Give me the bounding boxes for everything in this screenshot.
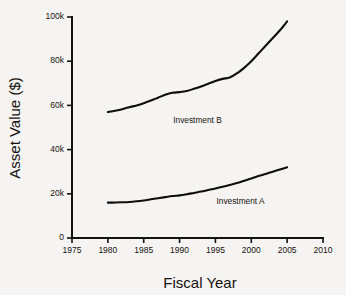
y-tick-label: 20k	[50, 188, 64, 198]
y-axis: 020k40k60k80k100k	[46, 11, 72, 242]
y-tick-label: 60k	[50, 100, 64, 110]
series-annotations: Investment BInvestment A	[173, 115, 265, 206]
x-tick-label: 2000	[242, 245, 261, 255]
asset-value-line-chart: 020k40k60k80k100k 1975198019851990199520…	[0, 0, 346, 295]
x-tick-label: 1985	[134, 245, 153, 255]
y-axis-title: Asset Value ($)	[6, 77, 23, 178]
x-axis-title: Fiscal Year	[163, 274, 236, 291]
x-tick-label: 1980	[98, 245, 117, 255]
chart-container: 020k40k60k80k100k 1975198019851990199520…	[0, 0, 346, 295]
x-tick-label: 2005	[278, 245, 297, 255]
x-tick-label: 1975	[63, 245, 82, 255]
y-tick-label: 100k	[46, 11, 65, 21]
x-axis-tick-labels: 19751980198519901995200020052010	[63, 245, 333, 255]
x-tick-label: 2010	[314, 245, 333, 255]
y-axis-tick-labels: 020k40k60k80k100k	[46, 11, 65, 242]
y-tick-label: 0	[59, 232, 64, 242]
y-tick-label: 40k	[50, 144, 64, 154]
series-label-investment-a: Investment A	[217, 196, 265, 206]
series-line-investment-b	[108, 21, 287, 112]
y-tick-label: 80k	[50, 55, 64, 65]
data-series-group	[108, 21, 287, 202]
x-tick-label: 1995	[206, 245, 225, 255]
x-axis: 19751980198519901995200020052010	[63, 238, 333, 255]
series-label-investment-b: Investment B	[173, 115, 222, 125]
x-tick-label: 1990	[170, 245, 189, 255]
